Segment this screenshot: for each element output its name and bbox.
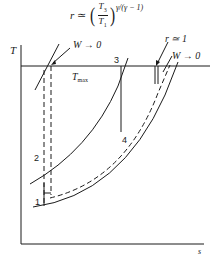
point-2: 2 xyxy=(34,153,39,163)
r-approx-label: r ≃ 1 xyxy=(165,33,187,44)
isobar-high-2-3 xyxy=(30,86,118,184)
tmax-label: Tmax xyxy=(72,71,88,83)
w-right-label: W → 0 xyxy=(172,50,200,61)
isobar-low-solid xyxy=(33,62,178,207)
point-3: 3 xyxy=(114,55,119,65)
t-axis-label: T xyxy=(10,44,17,56)
w-left-label: W → 0 xyxy=(73,39,101,50)
point-4: 4 xyxy=(122,135,127,145)
isobar-wzero-right xyxy=(163,56,172,72)
r-arrow xyxy=(157,42,168,64)
isobar-low-dashed xyxy=(50,65,170,198)
s-axis-label: s xyxy=(198,247,201,256)
isobar-high-top xyxy=(118,58,128,86)
ts-diagram: T s Tmax W → 0 W → 0 r ≃ 1 1 2 3 4 xyxy=(0,0,222,256)
point-1: 1 xyxy=(35,197,40,207)
isobar-wzero-left xyxy=(35,44,59,90)
